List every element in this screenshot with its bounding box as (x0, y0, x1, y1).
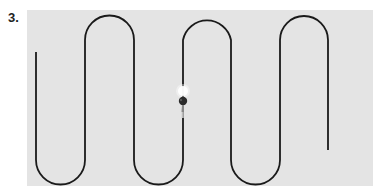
walker-with-light-icon (176, 84, 190, 118)
serpentine-path (0, 0, 381, 195)
